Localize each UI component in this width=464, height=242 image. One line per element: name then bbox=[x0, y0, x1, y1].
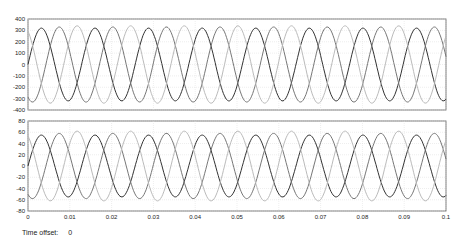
y-tick-label: -200 bbox=[13, 84, 26, 90]
x-tick-label: 0.03 bbox=[148, 214, 160, 220]
y-tick-label: -100 bbox=[13, 73, 26, 79]
plot-panel-1: 4003002001000-100-200-300-400 bbox=[13, 16, 446, 113]
y-tick-label: 0 bbox=[22, 62, 26, 68]
y-tick-label: 300 bbox=[15, 27, 26, 33]
y-tick-label: 200 bbox=[15, 39, 26, 45]
y-tick-label: 60 bbox=[18, 129, 25, 135]
y-tick-label: -20 bbox=[16, 174, 25, 180]
x-tick-label: 0.08 bbox=[357, 214, 369, 220]
x-tick-label: 0.06 bbox=[273, 214, 285, 220]
x-tick-label: 0.09 bbox=[398, 214, 410, 220]
scope-chart: 4003002001000-100-200-300-400806040200-2… bbox=[0, 0, 464, 242]
time-offset-label: Time offset: bbox=[22, 229, 58, 236]
y-tick-label: 80 bbox=[18, 118, 25, 124]
y-tick-label: -300 bbox=[13, 96, 26, 102]
y-tick-label: 0 bbox=[22, 163, 26, 169]
plot-panel-2: 806040200-20-40-60-8000.010.020.030.040.… bbox=[16, 118, 451, 220]
x-tick-label: 0.01 bbox=[64, 214, 76, 220]
y-tick-label: 40 bbox=[18, 141, 25, 147]
y-tick-label: 400 bbox=[15, 16, 26, 22]
x-tick-label: 0.04 bbox=[189, 214, 201, 220]
time-offset: Time offset: 0 bbox=[22, 229, 72, 236]
time-offset-value: 0 bbox=[68, 229, 72, 236]
x-tick-label: 0 bbox=[26, 214, 30, 220]
y-tick-label: -40 bbox=[16, 186, 25, 192]
y-tick-label: -60 bbox=[16, 197, 25, 203]
y-tick-label: 100 bbox=[15, 50, 26, 56]
y-tick-label: -400 bbox=[13, 107, 26, 113]
x-tick-label: 0.05 bbox=[231, 214, 243, 220]
y-tick-label: 20 bbox=[18, 152, 25, 158]
x-tick-label: 0.07 bbox=[315, 214, 327, 220]
x-tick-label: 0.1 bbox=[442, 214, 451, 220]
y-tick-label: -80 bbox=[16, 208, 25, 214]
x-tick-label: 0.02 bbox=[106, 214, 118, 220]
